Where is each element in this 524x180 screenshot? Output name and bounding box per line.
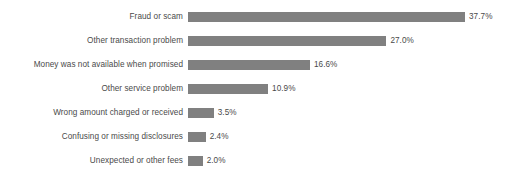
bar-row: Money was not available when promised 16… — [0, 56, 524, 74]
category-label: Other transaction problem — [0, 36, 188, 46]
bar-value-label: 27.0% — [390, 36, 413, 46]
bar-value-label: 10.9% — [272, 84, 295, 94]
bar-track: 2.4% — [188, 128, 524, 146]
bar-value-label: 3.5% — [218, 108, 237, 118]
bar-row: Unexpected or other fees 2.0% — [0, 152, 524, 170]
bar-fill — [188, 84, 268, 94]
bar-chart: Fraud or scam 37.7% Other transaction pr… — [0, 0, 524, 180]
bar-track: 10.9% — [188, 80, 524, 98]
bar-fill — [188, 132, 206, 142]
category-label: Other service problem — [0, 84, 188, 94]
bar-track: 37.7% — [188, 8, 524, 26]
bar-value-label: 2.4% — [210, 132, 229, 142]
bar-row: Other service problem 10.9% — [0, 80, 524, 98]
bar-row: Wrong amount charged or received 3.5% — [0, 104, 524, 122]
category-label: Confusing or missing disclosures — [0, 132, 188, 142]
category-label: Money was not available when promised — [0, 60, 188, 70]
bar-track: 3.5% — [188, 104, 524, 122]
bar-fill — [188, 60, 310, 70]
bar-row: Confusing or missing disclosures 2.4% — [0, 128, 524, 146]
bar-fill — [188, 156, 203, 166]
bar-value-label: 16.6% — [314, 60, 337, 70]
category-label: Unexpected or other fees — [0, 156, 188, 166]
bar-row: Fraud or scam 37.7% — [0, 8, 524, 26]
bar-value-label: 37.7% — [469, 12, 492, 22]
category-label: Fraud or scam — [0, 12, 188, 22]
bar-fill — [188, 108, 214, 118]
bar-track: 2.0% — [188, 152, 524, 170]
bar-track: 27.0% — [188, 32, 524, 50]
bar-track: 16.6% — [188, 56, 524, 74]
bar-row: Other transaction problem 27.0% — [0, 32, 524, 50]
bar-fill — [188, 36, 386, 46]
category-label: Wrong amount charged or received — [0, 108, 188, 118]
bar-value-label: 2.0% — [207, 156, 226, 166]
bar-fill — [188, 12, 465, 22]
